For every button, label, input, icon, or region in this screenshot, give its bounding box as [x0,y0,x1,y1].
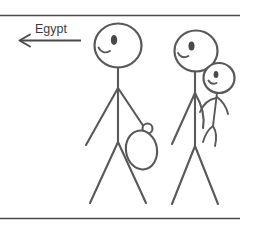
direction-marker: Egypt [20,22,82,47]
egypt-label: Egypt [35,22,67,36]
adult-right-arm [118,88,144,127]
child-far-arm [217,97,228,114]
illustration-canvas: Egypt [0,0,256,230]
parent-supporting-arm [195,93,204,128]
child-back-leg [213,126,216,146]
stick-figure-illustration: Egypt [0,0,256,230]
parent-eye [189,41,195,50]
adult-left-arm [86,88,118,145]
child [200,63,235,146]
arrow-left-icon [20,35,82,47]
adult-eye [111,35,117,45]
child-head [204,63,235,93]
parent-right-leg [195,146,218,204]
figure-adult-with-bag [86,24,160,204]
adult-head [95,24,142,68]
parent-left-leg [172,146,195,204]
child-eye [214,71,219,78]
figure-adult-with-child [172,31,235,205]
adult-left-leg [90,142,118,203]
child-front-leg [203,126,213,142]
parent-back-arm [172,93,195,144]
